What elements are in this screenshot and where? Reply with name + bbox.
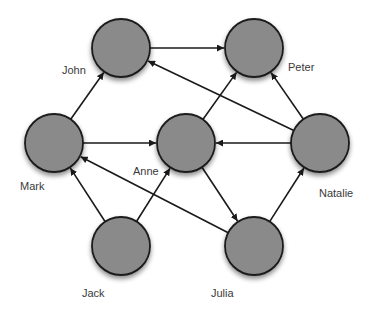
node-circle [225,217,283,275]
node-label: Mark [20,180,45,192]
node-label: Julia [211,287,235,299]
node-circle [92,19,150,77]
edge-mark-to-john [71,73,104,120]
node-circle [92,217,150,275]
node-circle [225,19,283,77]
node-label: Peter [288,61,315,73]
network-diagram: JohnPeterMarkAnneNatalieJackJulia [0,0,368,311]
node-mark: Mark [20,114,83,192]
node-jack: Jack [82,217,150,299]
edge-natalie-to-peter [271,73,303,120]
node-peter: Peter [225,19,315,77]
node-circle [25,114,83,172]
edge-anne-to-julia [202,167,237,221]
node-circle [157,114,215,172]
edge-jack-to-mark [70,168,105,222]
edge-anne-to-peter [203,72,237,119]
node-label: Jack [82,287,105,299]
nodes-layer: JohnPeterMarkAnneNatalieJackJulia [20,19,353,299]
node-john: John [62,19,150,77]
node-label: John [62,64,86,76]
node-circle [291,114,349,172]
node-label: Anne [133,165,159,177]
node-label: Natalie [319,187,353,199]
node-anne: Anne [133,114,215,177]
edge-julia-to-natalie [270,168,304,221]
node-natalie: Natalie [291,114,353,199]
